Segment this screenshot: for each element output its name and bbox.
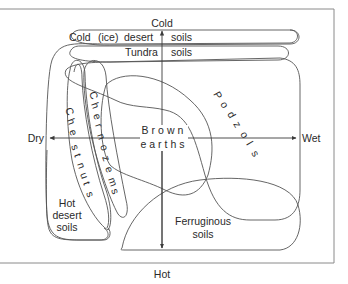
axis-label-dry: Dry <box>28 132 45 144</box>
svg-text:e: e <box>67 128 80 138</box>
svg-text:s: s <box>109 187 122 196</box>
svg-text:soils: soils <box>171 46 192 58</box>
svg-text:Tundra: Tundra <box>125 46 158 58</box>
svg-text:P: P <box>211 89 225 101</box>
diagram-frame: Cold Hot Dry Wet Cold (ice) desert soils… <box>0 0 348 284</box>
svg-text:m: m <box>106 176 120 189</box>
svg-text:s: s <box>69 143 82 152</box>
svg-text:h: h <box>89 101 102 111</box>
ferruginous-label-line2: soils <box>192 228 213 240</box>
svg-text:t: t <box>72 152 84 159</box>
axis-label-wet: Wet <box>302 132 321 144</box>
svg-text:s: s <box>84 190 97 199</box>
svg-text:z: z <box>231 119 244 130</box>
hot-desert-label-line2: desert <box>52 209 81 221</box>
svg-text:(ice): (ice) <box>98 31 118 43</box>
soil-diagram: Cold Hot Dry Wet Cold (ice) desert soils… <box>0 0 348 284</box>
svg-text:Cold: Cold <box>69 31 91 43</box>
svg-text:u: u <box>78 171 91 181</box>
brown-earths-label-line2: earths <box>140 138 187 150</box>
svg-text:l: l <box>244 139 256 147</box>
svg-text:z: z <box>100 154 113 163</box>
svg-text:n: n <box>75 161 88 171</box>
svg-text:e: e <box>91 112 104 122</box>
axis-label-cold: Cold <box>151 17 173 29</box>
svg-text:r: r <box>93 122 106 130</box>
cold-desert-label: Cold (ice) desert soils <box>69 31 192 43</box>
svg-text:desert: desert <box>124 31 153 43</box>
svg-text:e: e <box>103 165 116 175</box>
axis-label-hot: Hot <box>154 268 170 280</box>
podzols-label: P o d z o l s <box>211 89 262 159</box>
ferruginous-label-line1: Ferruginous <box>175 215 231 227</box>
svg-text:o: o <box>218 99 231 110</box>
svg-text:t: t <box>81 180 93 187</box>
svg-text:soils: soils <box>171 31 192 43</box>
svg-text:o: o <box>98 143 111 153</box>
svg-text:C: C <box>87 90 101 102</box>
svg-text:C: C <box>63 106 77 118</box>
hot-desert-label-line1: Hot <box>59 197 75 209</box>
hot-desert-label-line3: soils <box>56 221 77 233</box>
tundra-label: Tundra soils <box>125 46 192 58</box>
svg-text:o: o <box>238 129 251 140</box>
svg-text:d: d <box>225 109 238 120</box>
svg-text:s: s <box>249 148 262 159</box>
brown-earths-label-line1: Brown <box>142 124 187 136</box>
